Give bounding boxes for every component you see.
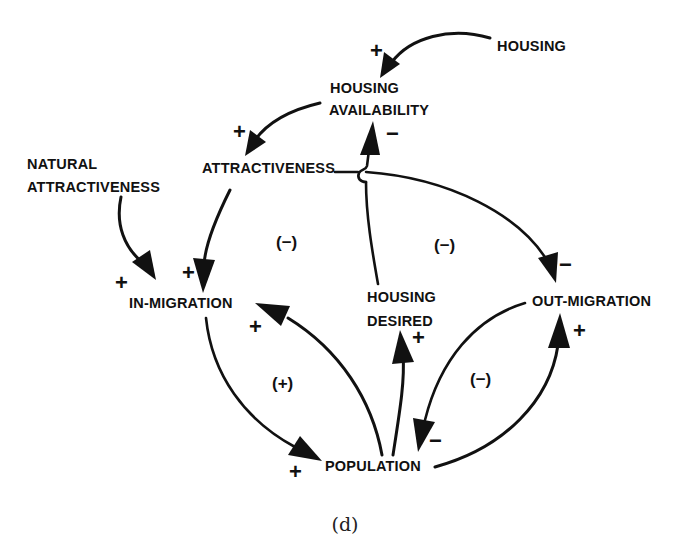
link-desired-to-availability	[358, 121, 380, 284]
loop-label-inmigration-population: (+)	[272, 374, 293, 393]
node-housing-desired: HOUSING DESIRED	[367, 289, 436, 329]
polarity-attractiveness-to-outmigration: −	[559, 252, 572, 277]
link-inmigration-to-population	[206, 318, 322, 461]
polarity-housing-to-availability: +	[370, 38, 383, 63]
link-natural-to-inmigration	[119, 197, 156, 280]
housing-availability-line-2: AVAILABILITY	[329, 102, 429, 118]
node-attractiveness: ATTRACTIVENESS	[202, 160, 335, 176]
link-population-to-desired	[392, 330, 414, 455]
polarity-population-to-inmigration: +	[249, 314, 262, 339]
polarity-attractiveness-to-inmigration: +	[182, 260, 195, 285]
link-attractiveness-to-inmigration	[193, 190, 230, 293]
node-in-migration: IN-MIGRATION	[129, 295, 233, 311]
natural-attractiveness-line-2: ATTRACTIVENESS	[27, 179, 160, 195]
node-housing-availability: HOUSING AVAILABILITY	[329, 80, 429, 118]
causal-loop-diagram: HOUSING HOUSING AVAILABILITY ATTRACTIVEN…	[0, 0, 690, 553]
node-out-migration: OUT-MIGRATION	[532, 293, 651, 309]
polarity-desired-to-availability: −	[386, 121, 399, 146]
housing-desired-line-1: HOUSING	[367, 289, 436, 305]
polarity-availability-to-attractiveness: +	[233, 119, 246, 144]
link-population-to-outmigration	[435, 313, 570, 467]
polarity-population-to-desired: +	[412, 325, 425, 350]
polarity-inmigration-to-population: +	[289, 459, 302, 484]
housing-availability-line-1: HOUSING	[330, 80, 399, 96]
node-natural-attractiveness: NATURAL ATTRACTIVENESS	[27, 156, 160, 195]
natural-attractiveness-line-1: NATURAL	[27, 156, 97, 172]
node-housing: HOUSING	[497, 38, 566, 54]
loop-label-attractiveness-inmigration: (−)	[276, 233, 297, 252]
figure-caption: (d)	[332, 513, 359, 535]
polarity-natural-to-inmigration: +	[115, 270, 128, 295]
loop-label-attractiveness-outmigration: (−)	[434, 236, 455, 255]
loop-label-outmigration-population: (−)	[470, 370, 491, 389]
polarity-outmigration-to-population: −	[429, 428, 442, 453]
link-availability-to-attractiveness	[245, 103, 320, 156]
node-population: POPULATION	[325, 458, 421, 474]
polarity-population-to-outmigration: +	[573, 318, 586, 343]
link-housing-to-availability	[380, 33, 490, 78]
